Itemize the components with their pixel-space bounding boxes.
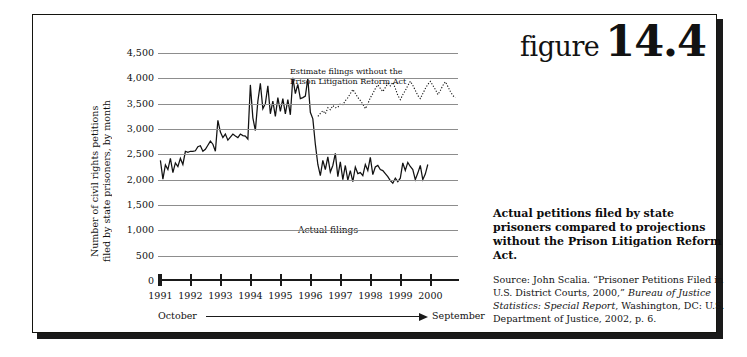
x-axis-tick-label: 1991 [148,290,172,301]
month-range-row: October September [144,309,499,325]
x-axis-tick [430,274,431,286]
x-axis-tick-label: 1998 [358,290,382,301]
x-axis-tick-label: 1994 [238,290,262,301]
y-axis-tick-label: 1,500 [127,200,154,210]
gridline [158,78,458,79]
x-axis-tick [310,274,311,286]
x-axis-tick [370,274,371,286]
caption-block: Actual petitions filed by state prisoner… [493,207,725,334]
x-axis-tick-label: 1996 [298,290,322,301]
x-axis-tick-label: 1999 [388,290,412,301]
x-axis-tick [190,274,191,286]
chart: Number of civil rights petitions filed b… [88,53,473,328]
x-axis-tick-label: 1997 [328,290,352,301]
x-axis-tick-label: 1993 [208,290,232,301]
x-axis-tick [400,274,401,286]
annotation-estimate-filings: Estimate filings without the Prison Liti… [290,67,406,86]
right-arrow-icon [419,313,428,321]
month-range-end: September [432,309,485,322]
gridline [158,256,458,257]
y-axis-tick-label: 3,500 [127,99,154,109]
y-axis-tick-label: 2,000 [127,175,154,185]
figure-label: figure 14.4 [510,17,714,63]
y-axis-tick-label: 4,500 [127,48,154,58]
x-axis-tick [340,274,341,286]
gridline [158,104,458,105]
x-axis-tick [250,274,251,286]
figure-number: 14.4 [605,21,706,61]
figure-frame: figure 14.4 Number of civil rights petit… [32,14,717,333]
plot-area: Estimate filings without the Prison Liti… [158,53,458,281]
y-axis-title-text: Number of civil rights petitions filed b… [89,100,113,262]
y-axis-tick-label: 0 [148,276,154,286]
gridline [158,205,458,206]
y-axis-title: Number of civil rights petitions filed b… [90,79,112,284]
series-layer [158,53,458,281]
y-axis-tick-label: 1,000 [127,226,154,236]
series-line [160,78,427,183]
gridline [158,53,458,54]
x-axis-tick-labels: 1991199219931994199519961997199819992000 [158,290,459,304]
x-axis-tick-label: 2000 [418,290,442,301]
y-axis-tick-label: 2,500 [127,150,154,160]
plot-wrap: 05001,0001,5002,0002,5003,0003,5004,0004… [116,53,471,328]
y-axis-tick-label: 4,000 [127,74,154,84]
month-range-start: October [158,309,197,322]
gridline [158,230,458,231]
x-axis-tick-label: 1995 [268,290,292,301]
x-axis-tick [160,274,161,286]
y-axis-tick-labels: 05001,0001,5002,0002,5003,0003,5004,0004… [116,53,154,281]
x-axis-tick [220,274,221,286]
figure-word: figure [520,33,599,60]
y-axis-tick-label: 500 [136,251,154,261]
gridline [158,154,458,155]
caption-source: Source: John Scalia. “Prisoner Petitions… [493,273,725,325]
x-axis-tick [280,274,281,286]
y-axis-tick-label: 3,000 [127,124,154,134]
x-axis-tick-label: 1992 [178,290,202,301]
caption-title: Actual petitions filed by state prisoner… [493,207,725,263]
gridline [158,129,458,130]
gridline [158,180,458,181]
series-line [318,81,455,116]
month-range-line [206,316,422,317]
x-axis-line [158,279,459,281]
